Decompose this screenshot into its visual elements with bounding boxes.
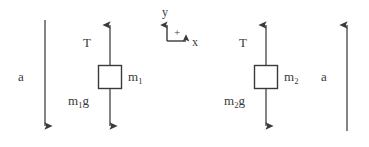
body-one-mass-letter: m [128,69,138,84]
body-two-tension-label: T [239,36,247,49]
body-one-weight-label: m1g [68,94,89,107]
y-axis-label: y [162,6,168,18]
body-two-mass-subscript: 2 [294,76,298,86]
axis-plus-label: + [174,27,180,38]
body-one-tension-label: T [83,36,91,49]
free-body-diagram: a T m1 m1g y + x T m2 m2g a [0,0,369,147]
body-one-group [99,25,122,126]
body-one-weight-letter: m [68,93,78,108]
body-two-mass-label: m2 [284,70,298,83]
body-two-weight-letter: m [224,93,234,108]
body-two-block [255,66,278,89]
body-two-group [255,25,278,126]
body-two-weight-label: m2g [224,94,245,107]
body-one-block [99,66,122,89]
body-one-mass-label: m1 [128,70,142,83]
right-acceleration-label: a [321,70,327,83]
body-two-mass-letter: m [284,69,294,84]
body-two-weight-suffix: g [238,93,245,108]
left-acceleration-label: a [18,70,24,83]
body-one-weight-suffix: g [82,93,89,108]
diagram-vector-layer [0,0,369,147]
body-one-mass-subscript: 1 [138,76,142,86]
x-axis-label: x [192,36,198,48]
body-two-weight-subscript: 2 [234,100,238,110]
body-one-weight-subscript: 1 [78,100,82,110]
